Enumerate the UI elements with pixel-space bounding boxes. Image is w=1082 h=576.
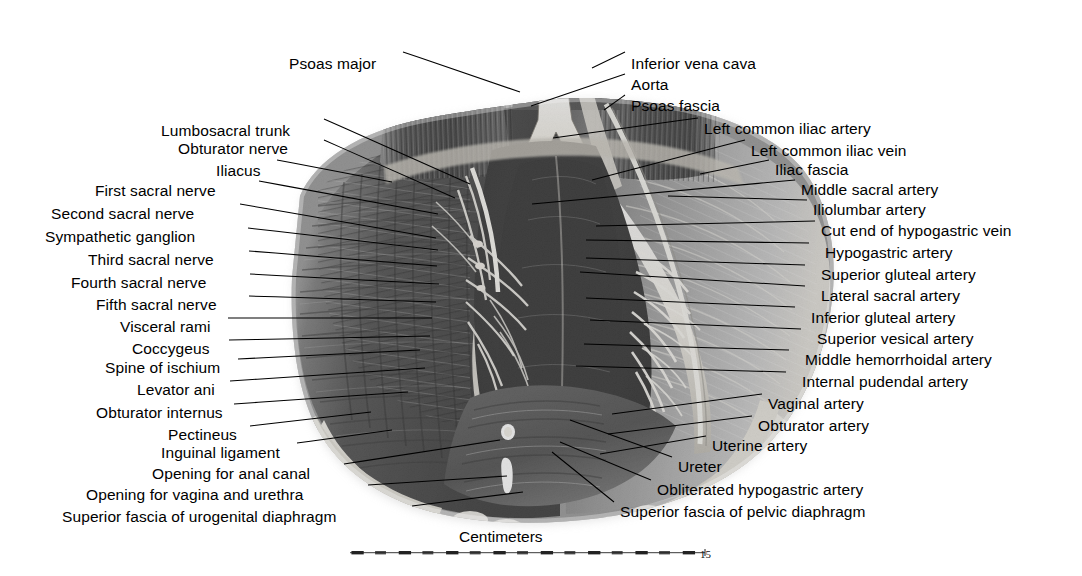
anatomy-label: Left common iliac artery (704, 121, 871, 137)
anatomy-label: Aorta (631, 77, 669, 93)
anatomy-label: Middle hemorrhoidal artery (805, 352, 992, 368)
anatomy-label: Lateral sacral artery (821, 288, 960, 304)
anatomy-label: Superior fascia of urogenital diaphragm (62, 509, 336, 525)
anatomy-label: Ureter (678, 459, 722, 475)
anatomy-label: Vaginal artery (768, 396, 864, 412)
anatomy-label: First sacral nerve (95, 183, 216, 199)
anatomy-label: Superior vesical artery (817, 331, 974, 347)
anatomy-label: Psoas major (289, 56, 376, 72)
anatomy-label: Sympathetic ganglion (45, 229, 195, 245)
anatomy-label: Levator ani (137, 382, 215, 398)
anatomy-label: Opening for vagina and urethra (86, 487, 304, 503)
anatomy-label: Obliterated hypogastric artery (657, 482, 863, 498)
anatomy-label: Superior gluteal artery (821, 267, 976, 283)
anatomy-label: Superior fascia of pelvic diaphragm (620, 504, 866, 520)
anatomy-label: Fifth sacral nerve (96, 297, 217, 313)
anatomy-label: Inguinal ligament (161, 445, 280, 461)
anatomy-label: Visceral rami (120, 319, 211, 335)
anatomy-label: Left common iliac vein (751, 143, 907, 159)
anatomy-label: Pectineus (168, 427, 237, 443)
anatomy-label: Uterine artery (712, 438, 807, 454)
anatomy-label: Third sacral nerve (88, 252, 214, 268)
anatomy-label: Inferior gluteal artery (811, 310, 955, 326)
anatomy-label: Fourth sacral nerve (71, 275, 206, 291)
anatomy-label: Inferior vena cava (631, 56, 756, 72)
anatomy-label: Opening for anal canal (152, 466, 310, 482)
figure-page: Psoas majorLumbosacral trunkObturator ne… (0, 0, 1082, 576)
anatomy-label: Middle sacral artery (801, 182, 938, 198)
anatomy-label: Cut end of hypogastric vein (821, 223, 1012, 239)
anatomy-label: Hypogastric artery (825, 245, 953, 261)
scale-end-value: 15 (700, 548, 711, 560)
anatomy-label: Lumbosacral trunk (161, 123, 290, 139)
anatomy-label: Iliacus (216, 163, 261, 179)
anatomy-label: Psoas fascia (631, 98, 720, 114)
anatomy-label: Coccygeus (132, 341, 210, 357)
anatomy-label: Spine of ischium (105, 360, 220, 376)
anatomy-label: Iliac fascia (775, 162, 849, 178)
anatomy-label: Obturator nerve (178, 141, 288, 157)
anatomy-label: Internal pudendal artery (802, 374, 968, 390)
anatomy-label: Second sacral nerve (51, 206, 194, 222)
anatomy-label: Obturator internus (96, 405, 223, 421)
anatomy-label: Iliolumbar artery (813, 202, 926, 218)
scale-caption: Centimeters (459, 528, 543, 546)
anatomy-label: Obturator artery (758, 418, 869, 434)
